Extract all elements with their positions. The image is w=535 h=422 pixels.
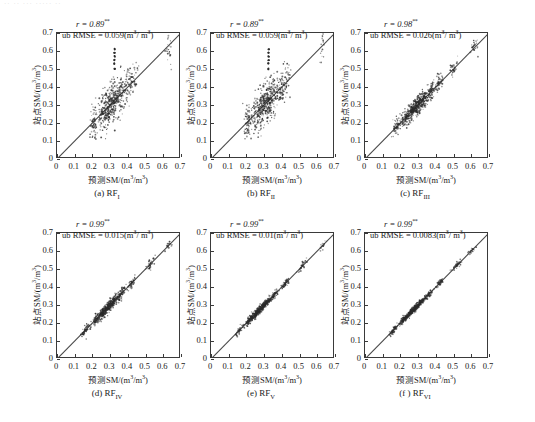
x-tick-label: 0	[54, 361, 58, 371]
ubrmse-value: ub RMSE = 0.01(m3/ m3)	[216, 229, 303, 240]
plot-area-f	[364, 232, 488, 358]
x-tick-label: 0.3	[258, 161, 269, 171]
ubrmse-units: (m3/ m3)	[124, 230, 153, 240]
outlier-point	[268, 56, 270, 58]
stats-annotation-b: r = 0.89**ub RMSE = 0.059(m3/ m3)	[216, 18, 307, 41]
x-tick-label: 0	[208, 161, 212, 171]
r-number: 0.89	[243, 19, 258, 29]
x-tick-label: 0.5	[293, 161, 304, 171]
panel-caption-c: (c) RFIII	[326, 188, 504, 200]
panel-caption-a: (a) RFI	[18, 188, 196, 200]
x-tick-label: 0	[208, 361, 212, 371]
y-tick-mark	[57, 159, 60, 160]
y-tick-mark	[365, 159, 368, 160]
y-axis-title: 站点SM/(m3/m3)	[184, 232, 196, 358]
caption-subscript: VI	[424, 393, 431, 400]
x-tick-label: 0.5	[139, 161, 150, 171]
x-tick-label: 0.7	[483, 361, 494, 371]
x-tick-label: 0.5	[447, 161, 458, 171]
y-axis-title: 站点SM/(m3/m3)	[30, 32, 42, 158]
x-tick-label: 0.3	[258, 361, 269, 371]
caption-text: (a) RF	[94, 188, 117, 198]
ubrmse-number: 0.01	[259, 230, 274, 240]
correlation-value: r = 0.99**	[216, 218, 303, 229]
scatter-canvas	[211, 233, 333, 357]
x-tick-label: 0.3	[104, 161, 115, 171]
outlier-point	[267, 48, 269, 50]
r-number: 0.99	[397, 219, 412, 229]
caption-subscript: V	[270, 393, 275, 400]
scatter-canvas	[365, 33, 487, 157]
caption-text: (d) RF	[92, 388, 116, 398]
significance-stars: **	[104, 18, 109, 24]
caption-text: (e) RF	[247, 388, 270, 398]
caption-subscript: III	[423, 193, 430, 200]
x-tick-label: 0.4	[276, 361, 287, 371]
caption-subscript: II	[271, 193, 275, 200]
x-tick-label: 0.5	[139, 361, 150, 371]
panel-caption-e: (e) RFV	[172, 388, 350, 400]
one-to-one-line	[365, 33, 487, 157]
stats-annotation-f: r = 0.99**ub RMSE = 0.0083(m3/ m3)	[370, 218, 466, 241]
x-tick-label: 0.4	[276, 161, 287, 171]
x-axis-title: 预测SM/(m3/m3)	[364, 173, 488, 185]
panel-caption-f: (f ) RFVI	[326, 388, 504, 400]
correlation-value: r = 0.89**	[216, 18, 307, 29]
significance-stars: **	[258, 218, 263, 224]
y-axis-title: 站点SM/(m3/m3)	[338, 32, 350, 158]
x-tick-label: 0.6	[465, 361, 476, 371]
stats-annotation-c: r = 0.98**ub RMSE = 0.026(m3/ m3)	[370, 18, 461, 41]
ubrmse-units: (m3/ m3)	[278, 30, 307, 40]
ubrmse-value: ub RMSE = 0.059(m3/ m3)	[62, 29, 153, 40]
ubrmse-number: 0.0083	[413, 230, 436, 240]
x-tick-label: 0.5	[293, 361, 304, 371]
x-tick-label: 0.1	[376, 361, 387, 371]
x-tick-label: 0.2	[240, 161, 251, 171]
x-tick-label: 0.1	[68, 161, 79, 171]
plot-area-e	[210, 232, 334, 358]
panel-caption-d: (d) RFIV	[18, 388, 196, 400]
r-number: 0.99	[89, 219, 104, 229]
y-axis-title: 站点SM/(m3/m3)	[184, 32, 196, 158]
x-tick-label: 0.2	[240, 361, 251, 371]
scatter-canvas	[57, 233, 179, 357]
significance-stars: **	[412, 218, 417, 224]
x-tick-label: 0.6	[465, 161, 476, 171]
y-tick-mark	[57, 359, 60, 360]
plot-area-d	[56, 232, 180, 358]
correlation-value: r = 0.99**	[370, 218, 466, 229]
x-tick-mark	[489, 354, 490, 357]
correlation-value: r = 0.99**	[62, 218, 153, 229]
cropped-header-text: ·· ·· ··· ····· ··	[4, 0, 124, 9]
outlier-point	[114, 59, 116, 61]
scatter-canvas	[365, 233, 487, 357]
x-tick-label: 0.1	[222, 161, 233, 171]
caption-text: (b) RF	[247, 188, 271, 198]
significance-stars: **	[104, 218, 109, 224]
ubrmse-number: 0.059	[105, 30, 124, 40]
plot-area-c	[364, 32, 488, 158]
x-tick-label: 0.2	[86, 361, 97, 371]
outlier-point	[267, 62, 269, 64]
ubrmse-number: 0.059	[259, 30, 278, 40]
x-tick-label: 0.1	[68, 361, 79, 371]
ubrmse-number: 0.015	[105, 230, 124, 240]
stats-annotation-d: r = 0.99**ub RMSE = 0.015(m3/ m3)	[62, 218, 153, 241]
x-axis-title: 预测SM/(m3/m3)	[210, 173, 334, 185]
correlation-value: r = 0.98**	[370, 18, 461, 29]
plot-area-b	[210, 32, 334, 158]
ubrmse-units: (m3/ m3)	[436, 230, 465, 240]
ubrmse-value: ub RMSE = 0.015(m3/ m3)	[62, 229, 153, 240]
x-axis-title: 预测SM/(m3/m3)	[56, 173, 180, 185]
x-axis-title: 预测SM/(m3/m3)	[56, 373, 180, 385]
scatter-canvas	[57, 33, 179, 157]
x-tick-label: 0.2	[86, 161, 97, 171]
x-tick-label: 0.1	[222, 361, 233, 371]
caption-subscript: IV	[115, 393, 122, 400]
x-tick-label: 0	[362, 361, 366, 371]
panel-caption-b: (b) RFII	[172, 188, 350, 200]
x-tick-label: 0.4	[122, 361, 133, 371]
outlier-point	[113, 63, 115, 65]
x-axis-title: 预测SM/(m3/m3)	[210, 373, 334, 385]
correlation-value: r = 0.89**	[62, 18, 153, 29]
